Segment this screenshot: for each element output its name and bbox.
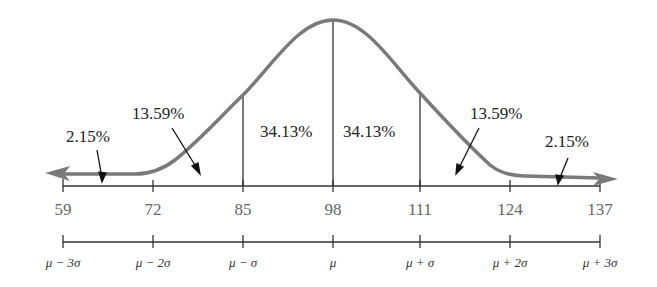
sigma-label-minus-1: μ − σ — [229, 255, 257, 271]
sd-divider-lines — [243, 20, 420, 186]
sigma-label-plus-1: μ + σ — [406, 255, 434, 271]
right-tail-percent: 2.15% — [545, 132, 589, 152]
left-tail-percent: 2.15% — [66, 127, 110, 147]
sigma-label-mean: μ — [330, 255, 337, 271]
bell-curve — [58, 20, 600, 178]
x-label-98: 98 — [325, 200, 342, 220]
x-label-72: 72 — [145, 200, 162, 220]
x-label-111: 111 — [408, 200, 432, 220]
sigma-label-minus-2: μ − 2σ — [136, 255, 171, 271]
right-one-sd-percent: 34.13% — [343, 122, 395, 142]
x-label-137: 137 — [587, 200, 613, 220]
sigma-label-plus-3: μ + 3σ — [583, 255, 618, 271]
left-one-sd-percent: 34.13% — [260, 122, 312, 142]
right-two-sd-percent: 13.59% — [470, 104, 522, 124]
sigma-label-minus-3: μ − 3σ — [46, 255, 81, 271]
x-label-124: 124 — [497, 200, 523, 220]
x-label-59: 59 — [55, 200, 72, 220]
x-label-85: 85 — [235, 200, 252, 220]
sigma-label-plus-2: μ + 2σ — [493, 255, 528, 271]
left-two-sd-percent: 13.59% — [132, 104, 184, 124]
